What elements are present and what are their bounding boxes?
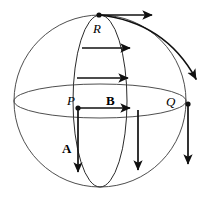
point-R-dot [96, 12, 101, 17]
sphere-outline [14, 15, 186, 187]
point-P-dot [75, 105, 80, 110]
point-label-P: P [67, 94, 75, 107]
point-Q-dot [185, 101, 190, 106]
point-label-R: R [93, 22, 101, 35]
point-label-Q: Q [166, 95, 175, 108]
meridian-ellipse [73, 15, 127, 187]
equator-ellipse [14, 84, 186, 118]
tangent-curve-from-R [99, 15, 196, 79]
vector-label-B: B [106, 94, 115, 107]
vector-label-A: A [62, 142, 71, 155]
sphere-vector-figure: R P Q A B [0, 0, 204, 198]
